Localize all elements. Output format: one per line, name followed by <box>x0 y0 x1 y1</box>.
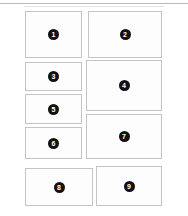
panel-1[interactable]: 1 <box>25 11 82 58</box>
panel-4[interactable]: 4 <box>86 60 162 111</box>
panel-number-badge: 9 <box>124 181 135 192</box>
layout-diagram-canvas: 123456789 <box>0 0 188 216</box>
panel-8[interactable]: 8 <box>25 168 93 206</box>
panel-number-badge: 8 <box>54 182 65 193</box>
panel-number-badge: 1 <box>48 29 59 40</box>
panel-5[interactable]: 5 <box>25 94 82 124</box>
panel-number-badge: 7 <box>119 131 130 142</box>
panel-number-badge: 4 <box>119 80 130 91</box>
top-divider-rule <box>0 3 188 4</box>
top-divider-rule-secondary <box>24 6 164 7</box>
panel-7[interactable]: 7 <box>86 114 162 159</box>
panel-number-badge: 2 <box>120 29 131 40</box>
panel-6[interactable]: 6 <box>25 127 82 159</box>
panel-number-badge: 3 <box>48 71 59 82</box>
panel-2[interactable]: 2 <box>88 11 162 58</box>
panel-9[interactable]: 9 <box>96 166 162 206</box>
panel-number-badge: 6 <box>48 138 59 149</box>
panel-number-badge: 5 <box>48 104 59 115</box>
panel-3[interactable]: 3 <box>25 62 82 91</box>
